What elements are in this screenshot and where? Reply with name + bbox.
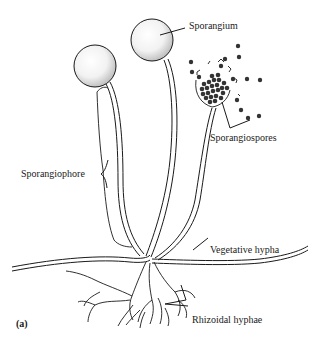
diagram-drawing [0,0,324,361]
rhizopus-diagram: Sporangium Sporangiospores Sporangiophor… [0,0,324,361]
sporangiospores-cluster [189,44,262,120]
panel-label: (a) [16,319,28,329]
label-vegetative-hypha: Vegetative hypha [210,245,279,255]
label-sporangium: Sporangium [189,21,238,31]
label-rhizoidal-hyphae: Rhizoidal hyphae [192,315,262,325]
sporangiophores [106,59,216,260]
bursting-sporangium [189,44,262,120]
sporangia [74,19,173,87]
collapsed-sporangiophore [97,87,132,247]
label-sporangiophore: Sporangiophore [21,169,85,179]
label-sporangiospores: Sporangiospores [210,133,277,143]
rhizoidal-hyphae [66,262,195,328]
